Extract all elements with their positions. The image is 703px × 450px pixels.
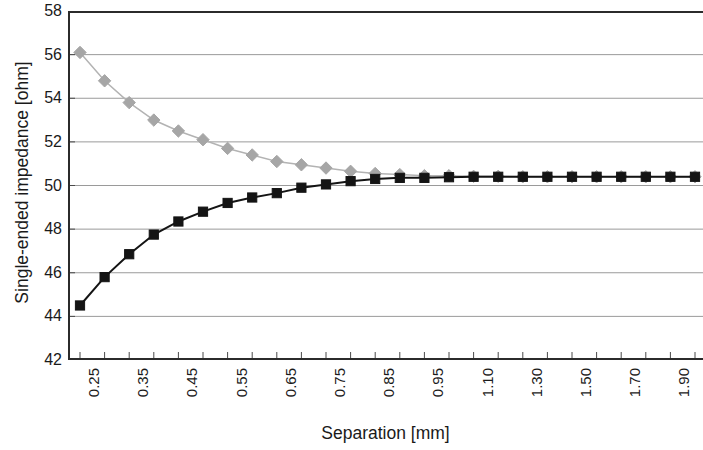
series-line-upper: [80, 52, 695, 176]
x-tick-label: 1.70: [627, 368, 642, 428]
data-point-lower: [346, 177, 355, 186]
y-tick-label: 46: [32, 265, 62, 281]
plot-border-top: [68, 11, 703, 13]
x-tick-label: 1.90: [676, 368, 691, 428]
data-point-upper: [246, 149, 258, 161]
data-point-upper: [197, 133, 209, 145]
data-point-lower: [395, 173, 404, 182]
data-point-lower: [75, 301, 84, 310]
data-point-lower: [149, 230, 158, 239]
data-point-lower: [248, 193, 257, 202]
data-point-upper: [148, 114, 160, 126]
data-point-lower: [641, 172, 650, 181]
y-tick-label: 58: [32, 3, 62, 19]
x-tick-label: 0.25: [86, 368, 101, 428]
data-point-lower: [690, 172, 699, 181]
data-point-lower: [567, 172, 576, 181]
data-point-lower: [371, 174, 380, 183]
data-point-lower: [518, 172, 527, 181]
axis-line-left: [68, 11, 70, 360]
x-tick-label: 0.45: [184, 368, 199, 428]
series-line-lower: [80, 177, 695, 306]
data-point-lower: [617, 172, 626, 181]
x-tick-label: 1.30: [529, 368, 544, 428]
data-point-upper: [221, 142, 233, 154]
data-point-lower: [444, 173, 453, 182]
data-point-lower: [321, 180, 330, 189]
x-tick-label: 0.65: [283, 368, 298, 428]
y-tick-label: 52: [32, 134, 62, 150]
x-tick-label: 0.95: [430, 368, 445, 428]
x-axis-title: Separation [mm]: [68, 423, 703, 444]
data-point-lower: [198, 207, 207, 216]
y-tick-label: 48: [32, 221, 62, 237]
data-point-lower: [272, 189, 281, 198]
data-point-upper: [320, 162, 332, 174]
data-point-lower: [420, 173, 429, 182]
y-tick-label: 54: [32, 90, 62, 106]
data-point-lower: [592, 172, 601, 181]
data-point-lower: [125, 250, 134, 259]
data-point-lower: [543, 172, 552, 181]
data-point-upper: [172, 125, 184, 137]
y-tick-label: 44: [32, 308, 62, 324]
y-tick-label: 50: [32, 178, 62, 194]
x-tick-label: 1.10: [480, 368, 495, 428]
y-tick-label: 56: [32, 47, 62, 63]
data-point-lower: [297, 183, 306, 192]
data-point-lower: [469, 172, 478, 181]
x-tick-label: 0.85: [381, 368, 396, 428]
x-tick-label: 0.55: [234, 368, 249, 428]
axis-line-bottom: [68, 358, 703, 360]
x-tick-label: 0.75: [332, 368, 347, 428]
x-tick-label: 1.50: [578, 368, 593, 428]
plot-svg: [68, 11, 703, 360]
chart-container: Single-ended impedance [ohm] 42444648505…: [0, 0, 703, 450]
data-point-upper: [271, 155, 283, 167]
y-axis-tick-labels: 424446485052545658: [28, 0, 62, 380]
data-point-lower: [494, 172, 503, 181]
data-point-lower: [100, 273, 109, 282]
data-point-lower: [223, 198, 232, 207]
data-point-lower: [666, 172, 675, 181]
data-point-upper: [344, 165, 356, 177]
plot-area: [68, 11, 703, 360]
x-tick-label: 0.35: [135, 368, 150, 428]
y-tick-label: 42: [32, 352, 62, 368]
data-point-lower: [174, 217, 183, 226]
data-point-upper: [295, 159, 307, 171]
